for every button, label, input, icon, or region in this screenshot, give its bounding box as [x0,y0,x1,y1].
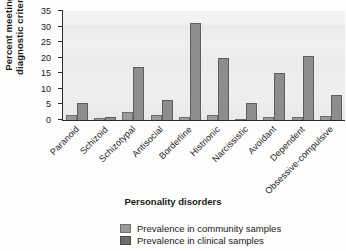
legend-label-community: Prevalence in community samples [137,223,281,234]
bar-clinical [133,67,144,120]
y-axis-title-line-2: diagnostic criteria [14,0,25,91]
bar-group [235,11,257,120]
bar-clinical [190,23,201,120]
y-axis-tick-label: 0 [46,115,51,125]
bar-community [235,119,246,121]
bar-group [66,11,88,120]
bar-clinical [303,56,314,120]
bar-community [151,115,162,120]
bar-clinical [274,73,285,120]
y-axis-tick-label: 35 [41,6,51,16]
bar-group [151,11,173,120]
bar-group [179,11,201,120]
bar-community [179,117,190,120]
bar-community [66,115,77,120]
plot-area: 05101520253035 [62,11,345,121]
legend-item-clinical: Prevalence in clinical samples [120,234,281,246]
bar-community [292,117,303,120]
bar-community [320,116,331,120]
bar-chart: Percent meeting diagnostic criteria 0510… [0,0,346,251]
bar-community [207,115,218,120]
y-axis-tick-label: 15 [41,68,51,78]
y-axis-tick-label: 30 [41,22,51,32]
x-axis-tick-label: Paranoid [48,124,81,157]
x-axis-title: Personality disorders [0,196,346,207]
legend: Prevalence in community samples Prevalen… [120,222,281,246]
legend-label-clinical: Prevalence in clinical samples [137,235,264,246]
bar-group [122,11,144,120]
bar-series-container [63,11,345,120]
bar-group [207,11,229,120]
y-axis-tick-label: 20 [41,53,51,63]
legend-swatch-community-icon [120,224,131,233]
bar-clinical [77,103,88,120]
legend-item-community: Prevalence in community samples [120,222,281,234]
bar-group [94,11,116,120]
x-axis-tick-labels: ParanoidSchizoidSchizotypalAntisocialBor… [62,122,344,184]
bar-clinical [162,100,173,120]
bar-community [122,112,133,120]
bar-group [320,11,342,120]
y-axis-title-line-1: Percent meeting [3,0,14,91]
y-axis-tick-label: 10 [41,84,51,94]
bar-clinical [218,58,229,120]
bar-group [292,11,314,120]
bar-clinical [246,103,257,120]
y-axis-tick-label: 5 [46,99,51,109]
bar-community [94,118,105,120]
bar-clinical [105,117,116,120]
y-axis-title: Percent meeting diagnostic criteria [3,0,25,91]
legend-swatch-clinical-icon [120,236,131,245]
bar-clinical [331,95,342,120]
bar-group [263,11,285,120]
y-axis-tick-label: 25 [41,37,51,47]
bar-community [263,117,274,120]
